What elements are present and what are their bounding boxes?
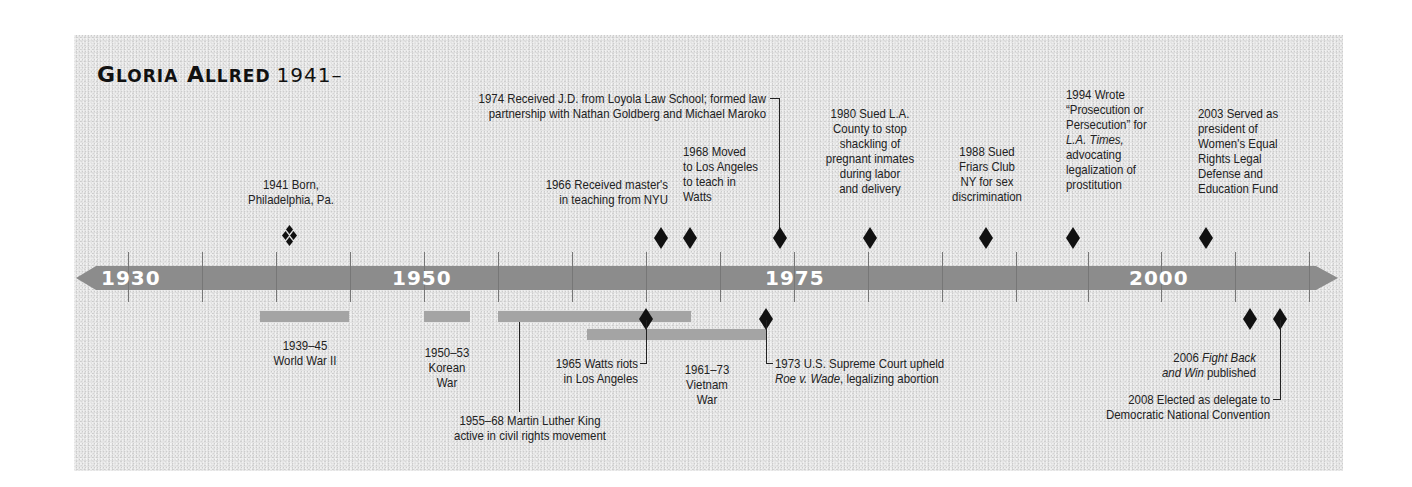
tick-1985 <box>942 252 943 302</box>
period-label-korean-war: 1950–53KoreanWar <box>410 345 484 390</box>
four-diamond-icon <box>282 225 298 247</box>
period-label-vietnam-war: 1961–73VietnamWar <box>676 362 738 407</box>
decade-label-2000: 2000 <box>1129 267 1189 289</box>
decade-label-1930: 1930 <box>101 267 161 289</box>
event-label-1974: 1974 Received J.D. from Loyola Law Schoo… <box>426 91 766 121</box>
event-label-1980: 1980 Sued L.A.County to stopshackling of… <box>817 106 923 196</box>
tick-1990 <box>1016 252 1017 302</box>
timeline-title: GLORIA ALLRED1941– <box>97 62 342 87</box>
tick-1995 <box>1088 252 1089 302</box>
event-label-1968: 1968 Movedto Los Angelesto teach inWatts <box>683 144 771 204</box>
tick-2005 <box>1235 252 1236 302</box>
leader-line-2008-horizontal <box>1273 399 1281 400</box>
period-label-mlk: 1955–68 Martin Luther Kingactive in civi… <box>442 413 618 443</box>
period-bar-korean-war <box>424 311 470 322</box>
event-label-1965: 1965 Watts riotsin Los Angeles <box>517 356 638 386</box>
axis-arrow-right <box>1316 266 1338 290</box>
tick-1945 <box>350 252 351 302</box>
tick-1935 <box>202 252 203 302</box>
event-label-1973: 1973 U.S. Supreme Court upheldRoe v. Wad… <box>775 356 969 386</box>
tick-1980 <box>868 252 869 302</box>
leader-line-1965-horizontal <box>640 363 647 364</box>
leader-line-1974-vertical <box>779 98 780 230</box>
axis-arrow-left <box>76 266 96 290</box>
period-bar-vietnam-war <box>587 329 766 340</box>
event-label-1994: 1994 Wrote“Prosecution orPersecution” fo… <box>1066 87 1172 192</box>
period-bar-mlk <box>498 311 691 322</box>
event-label-1941: 1941 Born,Philadelphia, Pa. <box>234 177 348 207</box>
tick-1970 <box>720 252 721 302</box>
event-label-2003: 2003 Served aspresident ofWomen's EqualR… <box>1198 106 1304 196</box>
leader-line-2008 <box>1280 320 1281 399</box>
event-label-2006: 2006 Fight Backand Win published <box>1145 350 1256 380</box>
event-label-1966: 1966 Received master'sin teaching from N… <box>494 177 668 207</box>
event-label-1988: 1988 SuedFriars ClubNY for sexdiscrimina… <box>941 144 1033 204</box>
leader-line-1965 <box>646 320 647 363</box>
decade-label-1975: 1975 <box>765 267 825 289</box>
tick-1940 <box>276 252 277 302</box>
period-label-wwii: 1939–45World War II <box>257 338 354 368</box>
leader-line-1973-horizontal <box>766 363 773 364</box>
tick-1965 <box>646 252 647 302</box>
period-bar-wwii <box>260 311 349 322</box>
event-label-2008: 2008 Elected as delegate toDemocratic Na… <box>1085 392 1270 422</box>
leader-line-1973 <box>766 320 767 363</box>
decade-label-1950: 1950 <box>392 267 452 289</box>
tick-2010 <box>1309 252 1310 302</box>
tick-1960 <box>572 252 573 302</box>
tick-1955 <box>498 252 499 302</box>
